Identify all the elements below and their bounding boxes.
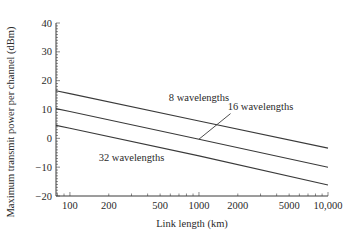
y-axis-title: Maximum transmit power per channel (dBm) — [5, 26, 17, 217]
y-tick-label: −20 — [36, 191, 52, 202]
x-tick-label: 500 — [152, 200, 168, 211]
series-labels: 8 wavelengths16 wavelengths32 wavelength… — [99, 92, 294, 162]
y-tick-label: 30 — [42, 46, 53, 57]
y-tick-label: 40 — [42, 18, 53, 29]
x-tick-label: 2000 — [227, 200, 248, 211]
x-tick-label: 1000 — [188, 200, 209, 211]
y-tick-label: −10 — [36, 162, 52, 173]
line-chart: 10020050010002000500010,000 −20−10010203… — [0, 0, 360, 241]
series-label: 16 wavelengths — [228, 101, 294, 112]
series-line-32-wavelengths — [56, 125, 328, 185]
x-tick-label: 100 — [62, 200, 78, 211]
series-line-16-wavelengths — [56, 109, 328, 168]
x-tick-label: 10,000 — [314, 200, 343, 211]
y-tick-label: 10 — [42, 104, 53, 115]
x-tick-label: 5000 — [279, 200, 300, 211]
series-label: 8 wavelengths — [169, 92, 229, 103]
x-axis-ticks: 10020050010002000500010,000 — [57, 192, 342, 211]
y-tick-label: 20 — [42, 75, 53, 86]
series-label: 32 wavelengths — [99, 152, 165, 163]
x-axis-title: Link length (km) — [156, 218, 228, 230]
y-tick-label: 0 — [47, 133, 52, 144]
x-tick-label: 200 — [101, 200, 117, 211]
